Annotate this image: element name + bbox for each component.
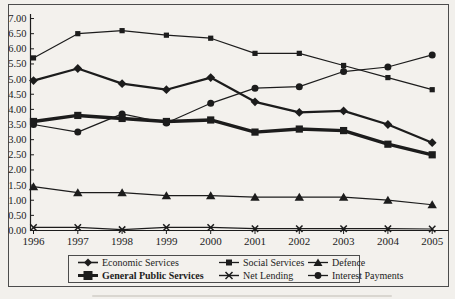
svg-text:2.00: 2.00: [8, 164, 26, 175]
svg-text:3.50: 3.50: [8, 119, 26, 130]
diamond-marker-icon: [78, 258, 98, 267]
svg-text:4.50: 4.50: [8, 89, 26, 100]
svg-text:2003: 2003: [333, 235, 356, 247]
legend-item-social-services: Social Services: [219, 258, 308, 268]
svg-text:1996: 1996: [23, 235, 46, 247]
y-axis-tick-labels: 0.000.501.001.502.002.503.003.504.004.50…: [8, 13, 26, 236]
scan-artifact-line: [92, 295, 392, 297]
svg-text:7.00: 7.00: [8, 13, 26, 24]
legend-label: Net Lending: [243, 271, 293, 281]
circle-marker-icon: [308, 271, 328, 280]
series-economic-services: [29, 64, 437, 147]
svg-text:2000: 2000: [200, 235, 223, 247]
legend-item-general-public-services: General Public Services: [78, 270, 219, 281]
legend-item-defence: Defence: [308, 258, 403, 268]
svg-text:6.50: 6.50: [8, 28, 26, 39]
x-marker-icon: [219, 271, 239, 280]
legend-item-interest-payments: Interest Payments: [308, 271, 403, 281]
large-square-marker-icon: [78, 270, 98, 281]
legend-box: Economic Services Social Services Defenc…: [68, 255, 360, 283]
svg-text:2.50: 2.50: [8, 149, 26, 160]
svg-text:1999: 1999: [155, 235, 178, 247]
series-net-lending: [30, 224, 435, 233]
legend-label: Economic Services: [102, 258, 179, 268]
svg-text:2004: 2004: [377, 235, 400, 247]
scanned-chart-page: 0.000.501.001.502.002.503.003.504.004.50…: [0, 0, 455, 299]
series-social-services: [31, 28, 435, 92]
legend-item-net-lending: Net Lending: [219, 271, 308, 281]
svg-text:1.50: 1.50: [8, 180, 26, 191]
series-general-public-services: [30, 112, 436, 159]
legend-label: Defence: [332, 258, 365, 268]
x-axis-tick-labels: 1996199719981999200020012002200320042005: [23, 235, 444, 247]
series-layer: [29, 28, 437, 233]
svg-text:6.00: 6.00: [8, 43, 26, 54]
svg-text:2002: 2002: [288, 235, 310, 247]
svg-text:5.50: 5.50: [8, 58, 26, 69]
triangle-marker-icon: [308, 258, 328, 267]
svg-text:0.50: 0.50: [8, 210, 26, 221]
square-marker-icon: [219, 258, 239, 267]
svg-text:1998: 1998: [111, 235, 134, 247]
svg-text:1.00: 1.00: [8, 195, 26, 206]
legend-label: General Public Services: [102, 271, 204, 281]
svg-text:2001: 2001: [244, 235, 266, 247]
legend-item-economic-services: Economic Services: [78, 258, 219, 268]
svg-text:2005: 2005: [421, 235, 444, 247]
svg-text:4.00: 4.00: [8, 104, 26, 115]
series-interest-payments: [30, 51, 436, 135]
svg-text:3.00: 3.00: [8, 134, 26, 145]
series-defence: [29, 182, 437, 208]
legend-label: Social Services: [243, 258, 304, 268]
svg-text:5.00: 5.00: [8, 74, 26, 85]
svg-text:1997: 1997: [67, 235, 90, 247]
legend-label: Interest Payments: [332, 271, 403, 281]
